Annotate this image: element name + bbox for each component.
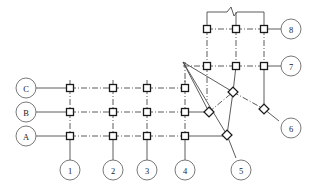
square-node-16 bbox=[233, 63, 240, 70]
skew-line-0-3 bbox=[233, 92, 264, 109]
square-node-17 bbox=[261, 63, 268, 70]
square-node-2 bbox=[144, 85, 151, 92]
fan-ray-to-diamond-2 bbox=[183, 62, 227, 135]
diamond-node-3 bbox=[259, 104, 269, 114]
skew-line-2-0 bbox=[227, 92, 233, 135]
square-node-14 bbox=[261, 26, 268, 33]
diamond-node-2 bbox=[222, 130, 232, 140]
square-node-1 bbox=[110, 85, 117, 92]
axis-label-bottom-3-label: 3 bbox=[145, 166, 149, 176]
axis-label-bottom-2-label: 2 bbox=[111, 166, 115, 176]
axis-label-left-C-label: C bbox=[23, 84, 29, 94]
break-symbol-icon bbox=[227, 7, 237, 16]
square-node-7 bbox=[182, 109, 189, 116]
axis-label-bottom-1-label: 1 bbox=[68, 166, 72, 176]
axis-label-right-6-label: 6 bbox=[289, 124, 293, 134]
square-node-0 bbox=[67, 85, 74, 92]
square-node-5 bbox=[110, 109, 117, 116]
axis-label-bottom-5-label: 5 bbox=[239, 166, 243, 176]
axis-label-right-8-label: 8 bbox=[289, 25, 293, 35]
square-node-10 bbox=[144, 133, 151, 140]
square-node-12 bbox=[204, 26, 211, 33]
axis-label-right-7-label: 7 bbox=[289, 62, 293, 72]
square-node-15 bbox=[204, 63, 211, 70]
square-node-4 bbox=[67, 109, 74, 116]
square-node-11 bbox=[182, 133, 189, 140]
square-node-6 bbox=[144, 109, 151, 116]
square-node-3 bbox=[182, 85, 189, 92]
grid-axis-diagram: CBA12345876 bbox=[0, 0, 317, 193]
skew-line-1-0 bbox=[209, 92, 233, 112]
square-node-9 bbox=[110, 133, 117, 140]
square-node-8 bbox=[67, 133, 74, 140]
square-node-13 bbox=[233, 26, 240, 33]
axis-label-left-A-label: A bbox=[23, 132, 30, 142]
axis-label-left-B-label: B bbox=[23, 108, 29, 118]
diagram-canvas: CBA12345876 bbox=[0, 0, 317, 193]
